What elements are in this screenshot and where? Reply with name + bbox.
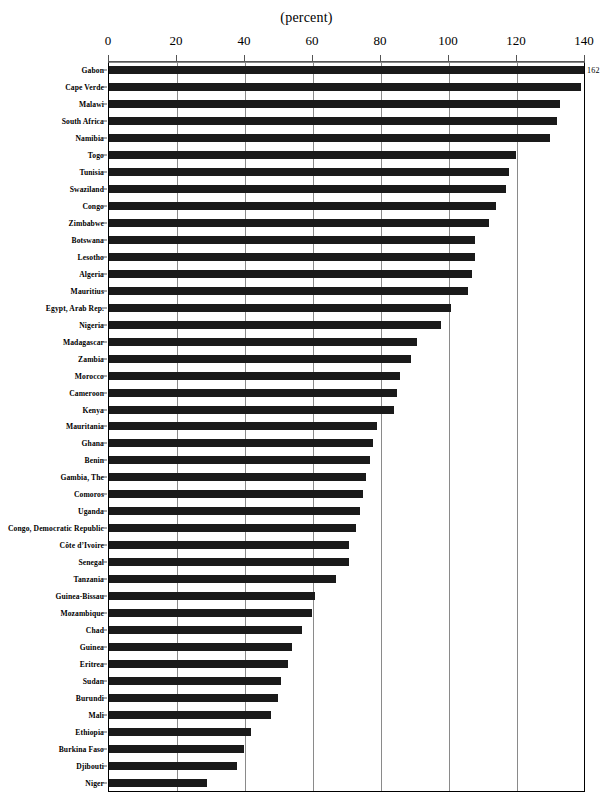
category-label: Zambia [78,354,104,363]
bar[interactable] [109,592,315,600]
bar-row[interactable]: Cameroon [0,384,613,401]
bar[interactable] [109,745,244,753]
category-label: Lesotho [78,252,104,261]
bar-row[interactable]: Mozambique [0,605,613,622]
bar-row[interactable]: Tanzania [0,571,613,588]
bar[interactable] [109,422,377,430]
bar-row[interactable]: Ethiopia [0,723,613,740]
bar-row[interactable]: Togo [0,147,613,164]
bar-row[interactable]: Gabon162 [0,62,613,79]
bar[interactable] [109,185,506,193]
bar-row[interactable]: Eritrea [0,655,613,672]
y-axis-tick [102,358,107,359]
bar[interactable] [109,626,302,634]
bar-row[interactable]: Uganda [0,503,613,520]
bar-row[interactable]: Côte d’Ivoire [0,537,613,554]
bar-row[interactable]: Namibia [0,130,613,147]
bar[interactable] [109,473,366,481]
bar-row[interactable]: Madagascar [0,333,613,350]
bar-row[interactable]: Cape Verde [0,79,613,96]
bar-row[interactable]: Djibouti [0,757,613,774]
bar[interactable] [109,779,207,787]
y-axis-tick [102,172,107,173]
bar-row[interactable]: Tunisia [0,164,613,181]
bar[interactable] [109,439,373,447]
bar-row[interactable]: Congo, Democratic Republic [0,520,613,537]
y-axis-tick [102,545,107,546]
category-label: Mauritius [71,286,104,295]
bar[interactable] [109,134,550,142]
bar[interactable] [109,660,288,668]
bar-row[interactable]: Egypt, Arab Rep. [0,299,613,316]
bar[interactable] [109,490,363,498]
bar[interactable] [109,541,349,549]
tick-label-20: 20 [170,33,183,49]
bar-row[interactable]: Lesotho [0,248,613,265]
bar[interactable] [109,100,560,108]
bar-row[interactable]: Senegal [0,554,613,571]
bar[interactable] [109,762,237,770]
bar-row[interactable]: Chad [0,621,613,638]
y-axis-tick [102,223,107,224]
bar[interactable] [109,507,360,515]
bar[interactable] [109,355,411,363]
bar[interactable] [109,609,312,617]
bar-row[interactable]: Mauritius [0,282,613,299]
category-label: Comoros [74,490,104,499]
bar-row[interactable]: Zambia [0,350,613,367]
bar[interactable] [109,406,394,414]
bar[interactable] [109,287,468,295]
bar-row[interactable]: Sudan [0,672,613,689]
bar-row[interactable]: Morocco [0,367,613,384]
bar[interactable] [109,372,400,380]
bar-row[interactable]: Burkina Faso [0,740,613,757]
bar-row[interactable]: Mali [0,706,613,723]
bar-row[interactable]: Algeria [0,265,613,282]
y-axis-tick [102,409,107,410]
bar[interactable] [109,151,516,159]
bar-row[interactable]: Malawi [0,96,613,113]
bar[interactable] [109,524,356,532]
bar[interactable] [109,456,370,464]
bar[interactable] [109,728,251,736]
bar[interactable] [109,202,496,210]
bar[interactable] [109,304,451,312]
bar[interactable] [109,338,417,346]
bar-row[interactable]: Kenya [0,401,613,418]
bar[interactable] [109,711,271,719]
bar[interactable] [109,236,475,244]
category-label: Cameroon [69,388,104,397]
bar-row[interactable]: Niger [0,774,613,791]
bar-row[interactable]: Burundi [0,689,613,706]
bar-row[interactable]: Swaziland [0,181,613,198]
bar[interactable] [109,168,509,176]
category-label: Gambia, The [60,473,104,482]
bar[interactable] [109,270,472,278]
y-axis-tick [102,121,107,122]
bar-row[interactable]: Ghana [0,435,613,452]
bar-row[interactable]: Guinea-Bissau [0,588,613,605]
bar[interactable] [109,677,281,685]
bar[interactable] [109,389,397,397]
bar-row[interactable]: Guinea [0,638,613,655]
bar[interactable] [109,643,292,651]
bar[interactable] [109,253,475,261]
bar[interactable] [109,575,336,583]
bar[interactable] [109,694,278,702]
bar-row[interactable]: Benin [0,452,613,469]
bar[interactable] [109,66,584,74]
bar[interactable] [109,558,349,566]
bar[interactable] [109,117,557,125]
bar-row[interactable]: Congo [0,198,613,215]
bar-row[interactable]: Botswana [0,232,613,249]
bar-row[interactable]: Mauritania [0,418,613,435]
bar[interactable] [109,219,489,227]
bar-row[interactable]: Nigeria [0,316,613,333]
bar-row[interactable]: Gambia, The [0,469,613,486]
bar-row[interactable]: Comoros [0,486,613,503]
bar-row[interactable]: South Africa [0,113,613,130]
y-axis-tick [102,341,107,342]
bar[interactable] [109,321,441,329]
bar-row[interactable]: Zimbabwe [0,215,613,232]
bar[interactable] [109,83,581,91]
